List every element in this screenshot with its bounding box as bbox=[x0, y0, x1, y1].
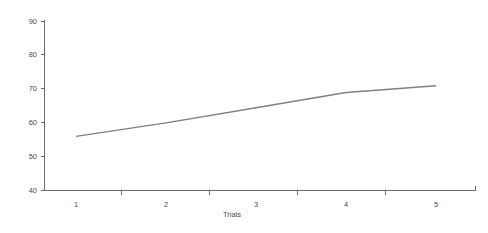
chart-background bbox=[0, 0, 488, 233]
x-tick-label-4: 4 bbox=[344, 200, 348, 209]
y-tick-label-60: 60 bbox=[29, 118, 37, 127]
x-tick-label-3: 3 bbox=[254, 200, 258, 209]
chart-canvas: 40 50 60 70 80 90 1 2 3 4 5 Trials bbox=[0, 0, 488, 233]
y-tick-label-80: 80 bbox=[29, 50, 37, 59]
y-tick-label-90: 90 bbox=[29, 17, 37, 26]
x-tick-label-5: 5 bbox=[434, 200, 438, 209]
y-tick-label-50: 50 bbox=[29, 152, 37, 161]
line-chart: 40 50 60 70 80 90 1 2 3 4 5 Trials bbox=[0, 0, 488, 233]
y-tick-label-70: 70 bbox=[29, 84, 37, 93]
y-tick-label-40: 40 bbox=[29, 186, 37, 195]
x-tick-label-1: 1 bbox=[74, 200, 78, 209]
x-axis-title: Trials bbox=[223, 210, 241, 219]
x-tick-label-2: 2 bbox=[164, 200, 168, 209]
